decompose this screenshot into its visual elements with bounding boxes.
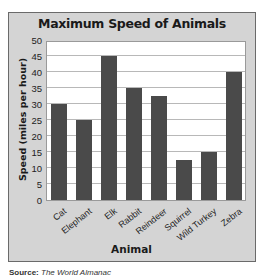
bar-squirrel — [176, 160, 192, 200]
source-label: Source: — [9, 268, 39, 277]
bar-reindeer — [151, 96, 167, 200]
bar-zebra — [226, 72, 242, 200]
bar-wild-turkey — [201, 152, 217, 200]
y-axis-label: Speed (miles per hour) — [17, 55, 28, 185]
bar-cat — [51, 104, 67, 200]
x-axis-label: Animal — [0, 243, 263, 255]
gridline — [47, 71, 245, 72]
gridline — [47, 87, 245, 88]
bar-rabbit — [126, 88, 142, 200]
gridline — [47, 55, 245, 56]
source-text: The World Almanac — [41, 268, 111, 277]
plot-area — [46, 41, 246, 201]
bar-elk — [101, 56, 117, 200]
source-note: Source: The World Almanac — [9, 268, 111, 277]
y-tick-label: 0 — [12, 196, 42, 206]
gridline — [47, 103, 245, 104]
y-tick-label: 50 — [12, 36, 42, 46]
bar-elephant — [76, 120, 92, 200]
chart-title: Maximum Speed of Animals — [8, 16, 256, 31]
